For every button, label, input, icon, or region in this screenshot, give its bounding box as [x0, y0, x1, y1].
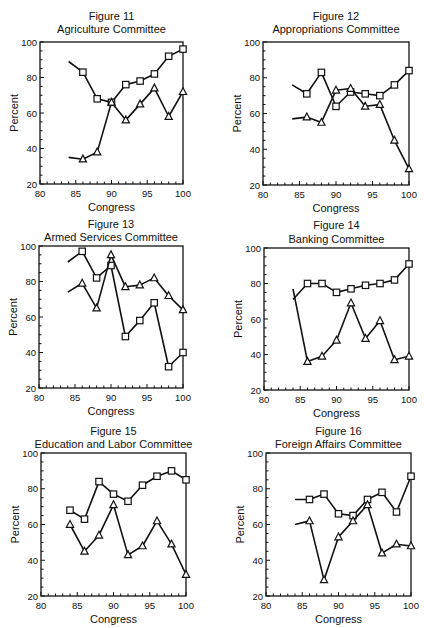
square-marker [80, 69, 86, 75]
square-marker [406, 261, 412, 267]
x-tick-label: 80 [34, 392, 45, 403]
square-marker [391, 82, 397, 88]
x-tick-label: 100 [403, 600, 419, 611]
x-tick-label: 85 [70, 392, 81, 403]
figure-number: Figure 14 [313, 219, 359, 231]
x-tick-label: 100 [175, 392, 191, 403]
square-marker [335, 511, 341, 517]
triangle-marker [303, 113, 310, 120]
triangle-marker [153, 517, 160, 524]
x-axis-label: Congress [315, 613, 363, 625]
square-marker [168, 468, 174, 474]
y-tick-label: 20 [250, 385, 261, 396]
y-tick-label: 40 [252, 555, 263, 566]
x-tick-label: 85 [294, 189, 305, 200]
triangle-marker [94, 148, 101, 155]
y-tick-label: 40 [250, 349, 261, 360]
series-line-triangles [70, 505, 186, 575]
y-tick-label: 100 [244, 37, 260, 48]
y-tick-label: 100 [247, 448, 263, 459]
square-marker [180, 349, 186, 355]
square-marker [154, 473, 160, 479]
x-axis-label: Congress [312, 202, 360, 214]
figure-number: Figure 15 [90, 425, 136, 437]
square-marker [180, 46, 186, 52]
y-tick-label: 60 [249, 108, 260, 119]
square-marker [110, 491, 116, 497]
square-marker [93, 275, 99, 281]
x-axis-label: Congress [88, 201, 136, 213]
triangle-marker [347, 299, 354, 306]
chart-panel-16: Figure 16Foreign Affairs Committee808590… [234, 425, 419, 625]
y-tick-label: 60 [252, 519, 263, 530]
figure-number: Figure 13 [88, 218, 134, 230]
triangle-marker [405, 352, 412, 359]
x-tick-label: 90 [106, 392, 117, 403]
triangle-marker [107, 251, 114, 258]
triangle-marker [378, 549, 385, 556]
square-marker [125, 498, 131, 504]
triangle-marker [110, 501, 117, 508]
y-tick-label: 20 [252, 591, 263, 602]
square-marker [318, 69, 324, 75]
x-tick-label: 85 [295, 394, 306, 405]
y-tick-label: 40 [27, 555, 38, 566]
y-tick-label: 40 [249, 144, 260, 155]
triangle-marker [151, 84, 158, 91]
y-axis-label: Percent [234, 506, 246, 544]
y-tick-label: 80 [249, 72, 260, 83]
y-tick-label: 20 [27, 591, 38, 602]
x-axis-label: Congress [87, 405, 135, 417]
chart-panel-11: Figure 11Agriculture Committee8085909510… [8, 10, 191, 213]
square-marker [151, 71, 157, 77]
x-tick-label: 95 [367, 189, 378, 200]
figure-grid: Figure 11Agriculture Committee8085909510… [0, 0, 424, 628]
figure-number: Figure 16 [315, 425, 361, 437]
square-marker [393, 509, 399, 515]
chart-panel-14: Figure 14Banking Committee80859095100204… [232, 219, 417, 419]
y-tick-label: 100 [22, 448, 38, 459]
x-tick-label: 85 [70, 188, 81, 199]
square-marker [391, 277, 397, 283]
triangle-marker [393, 540, 400, 547]
y-tick-label: 20 [25, 383, 36, 394]
square-marker [79, 248, 85, 254]
triangle-marker [182, 571, 189, 578]
y-tick-label: 100 [245, 243, 261, 254]
square-marker [81, 516, 87, 522]
x-tick-label: 85 [297, 600, 308, 611]
square-marker [377, 92, 383, 98]
x-tick-label: 100 [401, 394, 417, 405]
plot-frame [263, 42, 409, 185]
y-tick-label: 40 [26, 143, 37, 154]
triangle-marker [320, 576, 327, 583]
square-marker [379, 489, 385, 495]
square-marker [139, 482, 145, 488]
square-marker [67, 507, 73, 513]
y-axis-label: Percent [7, 298, 19, 336]
x-tick-label: 80 [261, 600, 272, 611]
chart-title: Foreign Affairs Committee [275, 438, 402, 450]
x-tick-label: 80 [259, 394, 270, 405]
triangle-marker [376, 317, 383, 324]
square-marker [166, 53, 172, 59]
triangle-marker [95, 531, 102, 538]
square-marker [333, 289, 339, 295]
chart-panel-13: Figure 13Armed Services Committee8085909… [7, 218, 191, 417]
y-tick-label: 100 [21, 37, 37, 48]
y-tick-label: 20 [26, 179, 37, 190]
triangle-marker [66, 521, 73, 528]
y-axis-label: Percent [232, 300, 244, 338]
figure-number: Figure 12 [313, 10, 359, 22]
square-marker [123, 81, 129, 87]
x-tick-label: 90 [108, 600, 119, 611]
square-marker [137, 317, 143, 323]
x-tick-label: 100 [178, 600, 194, 611]
chart-title: Appropriations Committee [272, 23, 399, 35]
x-tick-label: 80 [35, 188, 46, 199]
x-tick-label: 95 [144, 600, 155, 611]
triangle-marker [179, 88, 186, 95]
square-marker [333, 103, 339, 109]
plot-frame [40, 42, 183, 184]
series-line-triangles [69, 88, 183, 159]
